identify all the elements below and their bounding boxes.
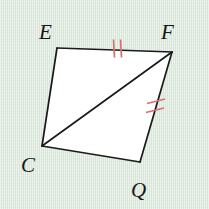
vertex-label-F: F xyxy=(161,22,174,43)
vertex-label-E: E xyxy=(39,22,52,43)
tick-mark-EF-1 xyxy=(114,40,115,58)
vertex-label-Q: Q xyxy=(131,180,146,201)
tick-mark-EF-2 xyxy=(121,40,122,58)
geometry-figure: E F Q C xyxy=(0,0,209,209)
vertex-label-C: C xyxy=(21,155,35,176)
geometry-canvas xyxy=(0,0,209,209)
